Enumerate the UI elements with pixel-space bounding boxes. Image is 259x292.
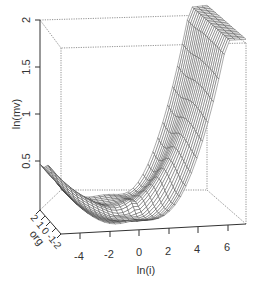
svg-text:0: 0 [136,246,142,258]
svg-text:-2: -2 [104,248,114,260]
svg-text:2: 2 [165,245,171,257]
svg-text:1.5: 1.5 [20,59,32,74]
z-axis-tick-labels: 2 1.5 1 0.5 [20,17,32,169]
x-axis-label: ln(i) [137,264,155,276]
surface-plot: 2 1.5 1 0.5 ln(mv) -4 -2 0 2 4 6 ln(i) 2… [0,0,259,292]
x-axis-tick-labels: -4 -2 0 2 4 6 [74,241,230,262]
svg-text:-4: -4 [74,250,84,262]
z-axis-label: ln(mv) [10,99,22,130]
svg-text:6: 6 [224,241,230,253]
svg-text:2: 2 [20,17,32,23]
wireframe-surface [40,5,246,224]
svg-text:4: 4 [194,243,200,255]
z-axis-ticks [35,20,40,161]
svg-text:0.5: 0.5 [20,153,32,168]
